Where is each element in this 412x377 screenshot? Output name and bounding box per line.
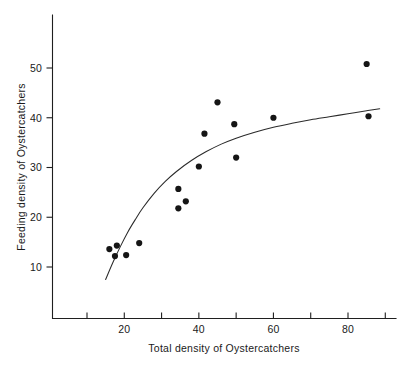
- data-point: [231, 121, 237, 127]
- y-tick-label-30: 30: [30, 161, 42, 173]
- y-tick-label-50: 50: [30, 62, 42, 74]
- y-tick-label-10: 10: [30, 261, 42, 273]
- x-tick-label-20: 20: [118, 323, 130, 335]
- data-point: [136, 240, 142, 246]
- data-point: [214, 99, 220, 105]
- axes-group: [53, 15, 397, 319]
- x-axis-ticks: [87, 313, 385, 319]
- data-point: [123, 252, 129, 258]
- y-axis-ticks: [47, 68, 53, 267]
- x-axis-title: Total density of Oystercatchers: [148, 342, 299, 354]
- data-point: [365, 113, 371, 119]
- data-point: [270, 115, 276, 121]
- plot-canvas: 1020304050 20406080 Total density of Oys…: [0, 0, 412, 377]
- data-point: [201, 131, 207, 137]
- y-axis-tick-labels: 1020304050: [30, 62, 42, 273]
- data-point: [364, 61, 370, 67]
- data-point: [183, 198, 189, 204]
- data-points-group: [106, 61, 371, 259]
- data-point: [114, 243, 120, 249]
- data-point: [175, 205, 181, 211]
- y-tick-label-40: 40: [30, 112, 42, 124]
- data-point: [106, 246, 112, 252]
- x-tick-label-80: 80: [342, 323, 354, 335]
- data-point: [196, 163, 202, 169]
- data-point: [175, 186, 181, 192]
- y-tick-label-20: 20: [30, 211, 42, 223]
- data-point: [233, 154, 239, 160]
- x-tick-label-60: 60: [267, 323, 279, 335]
- data-point: [112, 253, 118, 259]
- y-axis-title: Feeding density of Oystercatchers: [15, 83, 27, 251]
- x-tick-label-40: 40: [193, 323, 205, 335]
- x-axis-tick-labels: 20406080: [118, 323, 354, 335]
- fitted-curve: [106, 109, 380, 280]
- scatter-plot-figure: 1020304050 20406080 Total density of Oys…: [0, 0, 412, 377]
